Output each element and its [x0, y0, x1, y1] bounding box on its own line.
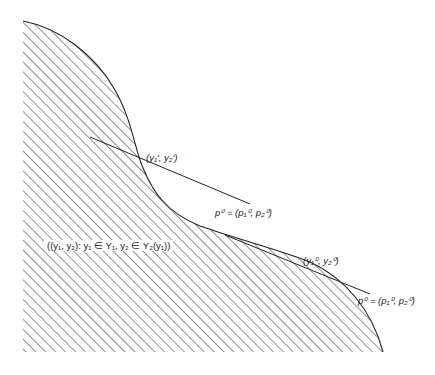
feasible-region [23, 21, 383, 352]
tangent-point-2-label: (y₁⁰, y₂⁰) [303, 255, 339, 266]
price-line-1-label: p⁰ = (p₁⁰, p₂⁰) [215, 207, 272, 218]
tangent-point-1-label: (y₁', y₂') [146, 152, 177, 163]
price-line-2-label: p⁰ = (p₁⁰, p₂⁰) [358, 295, 415, 306]
region-label: ((y₁, y₂): y₁ ∈ Y₁, y₂ ∈ Y₂(y₁)) [44, 240, 173, 251]
diagram-canvas [0, 0, 435, 375]
